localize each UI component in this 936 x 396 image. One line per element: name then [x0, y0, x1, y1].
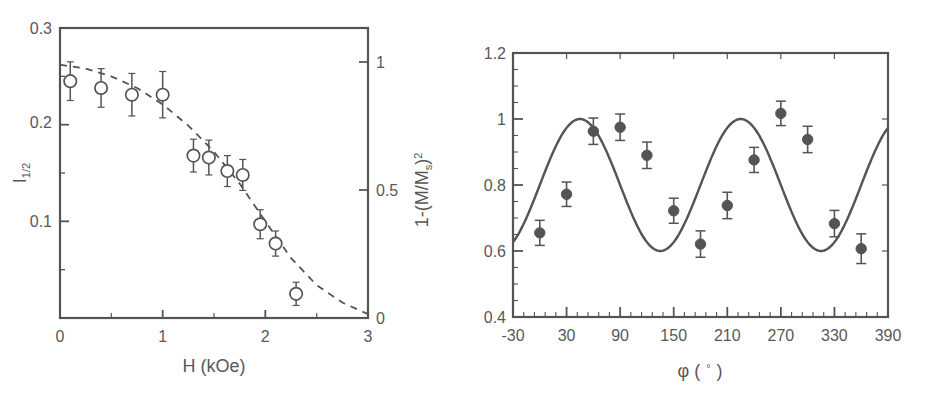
- open-circle-marker: [156, 89, 168, 101]
- right-data-point: [722, 192, 732, 218]
- right-ytick-label-12: 1.2: [484, 45, 506, 62]
- filled-circle-marker: [695, 239, 705, 249]
- left-x-axis-title: H (kOe): [183, 356, 246, 376]
- filled-circle-marker: [776, 108, 786, 118]
- open-circle-marker: [269, 237, 281, 249]
- left-y2tick-label-05: 0.5: [376, 182, 398, 199]
- left-y2-axis-title-prefix: 1-(M/M: [412, 170, 432, 227]
- right-xtick-label-5: 270: [768, 327, 795, 344]
- right-data-point: [856, 234, 866, 264]
- filled-circle-marker: [561, 189, 571, 199]
- right-xtick-label-7: 390: [875, 327, 902, 344]
- filled-circle-marker: [669, 206, 679, 216]
- right-xtick-label-2: 90: [611, 327, 629, 344]
- left-ytick-label-2: 0.1: [30, 213, 52, 230]
- right-ytick-label-06: 0.6: [484, 243, 506, 260]
- open-circle-marker: [203, 151, 215, 163]
- left-data-point: [95, 69, 107, 108]
- left-data-point: [187, 139, 199, 172]
- open-circle-marker: [95, 82, 107, 94]
- right-data-point: [695, 231, 705, 257]
- left-xtick-label-3: 3: [364, 328, 373, 345]
- filled-circle-marker: [856, 243, 866, 253]
- filled-circle-marker: [588, 126, 598, 136]
- left-plot-svg: 0.3 0.2 0.1 1 0.5 0 0 1 2 3 H (kOe) I1/2: [0, 0, 468, 396]
- left-data-point: [269, 231, 281, 256]
- left-plot-frame: [60, 28, 368, 318]
- filled-circle-marker: [615, 122, 625, 132]
- open-circle-marker: [254, 218, 266, 230]
- svg-text:I1/2: I1/2: [10, 163, 32, 183]
- left-plot-panel: 0.3 0.2 0.1 1 0.5 0 0 1 2 3 H (kOe) I1/2: [0, 0, 468, 396]
- right-ytick-label-04: 0.4: [484, 309, 506, 326]
- open-circle-marker: [64, 75, 76, 87]
- open-circle-marker: [237, 169, 249, 181]
- left-data-point: [254, 210, 266, 239]
- right-xtick-label-6: 330: [821, 327, 848, 344]
- open-circle-marker: [290, 288, 302, 300]
- right-data-point: [561, 182, 571, 206]
- right-ytick-label-10: 1: [497, 111, 506, 128]
- left-ytick-label-0: 0.3: [30, 20, 52, 37]
- right-data-point: [642, 142, 652, 168]
- filled-circle-marker: [722, 200, 732, 210]
- left-y-axis-title-sub: 1/2: [20, 163, 32, 178]
- left-y-axis-title: I1/2: [10, 163, 32, 183]
- svg-text:1-(M/Ms)2: 1-(M/Ms)2: [412, 153, 434, 228]
- right-plot-svg: 1.2 1 0.8 0.6 0.4 -30 30 90 150 210 270 …: [468, 0, 936, 396]
- left-xtick-label-2: 2: [261, 328, 270, 345]
- right-x-axis-title: φ (°): [677, 361, 722, 381]
- right-ytick-label-08: 0.8: [484, 177, 506, 194]
- left-ytick-label-1: 0.2: [30, 114, 52, 131]
- left-fit-curve: [60, 65, 368, 314]
- right-xtick-label-1: 30: [558, 327, 576, 344]
- left-data-point: [221, 156, 233, 187]
- right-xtick-label-0: -30: [501, 327, 524, 344]
- right-xtick-label-3: 150: [660, 327, 687, 344]
- right-x-axis-title-suffix: ): [717, 361, 723, 381]
- open-circle-marker: [187, 149, 199, 161]
- right-data-point: [669, 198, 679, 223]
- right-data-point: [615, 114, 625, 140]
- right-data-point: [749, 147, 759, 172]
- left-data-point: [290, 282, 302, 305]
- filled-circle-marker: [535, 228, 545, 238]
- left-data-point: [237, 159, 249, 190]
- two-panel-figure: 0.3 0.2 0.1 1 0.5 0 0 1 2 3 H (kOe) I1/2: [0, 0, 936, 396]
- right-data-point: [535, 220, 545, 245]
- left-data-point: [203, 140, 215, 175]
- left-y2-axis-title-sup: 2: [412, 153, 424, 159]
- left-data-point: [156, 72, 168, 118]
- filled-circle-marker: [642, 150, 652, 160]
- right-xtick-label-4: 210: [714, 327, 741, 344]
- right-plot-panel: 1.2 1 0.8 0.6 0.4 -30 30 90 150 210 270 …: [468, 0, 936, 396]
- left-xtick-label-0: 0: [56, 328, 65, 345]
- open-circle-marker: [126, 89, 138, 101]
- degree-icon: °: [706, 362, 710, 374]
- left-data-point: [126, 73, 138, 116]
- left-plot-secondary-axis-ticks: [359, 62, 368, 318]
- filled-circle-marker: [802, 134, 812, 144]
- left-y2tick-label-0: 0: [376, 310, 385, 327]
- filled-circle-marker: [749, 155, 759, 165]
- right-data-point: [776, 101, 786, 125]
- right-data-point: [588, 118, 598, 144]
- filled-circle-marker: [829, 218, 839, 228]
- right-data-point: [829, 210, 839, 236]
- left-y2-axis-title: 1-(M/Ms)2: [412, 153, 434, 228]
- left-xtick-label-1: 1: [158, 328, 167, 345]
- right-x-axis-title-prefix: φ (: [677, 361, 700, 381]
- left-y2tick-label-1: 1: [376, 54, 385, 71]
- left-data-series: [64, 62, 302, 306]
- open-circle-marker: [221, 165, 233, 177]
- right-data-point: [802, 126, 812, 152]
